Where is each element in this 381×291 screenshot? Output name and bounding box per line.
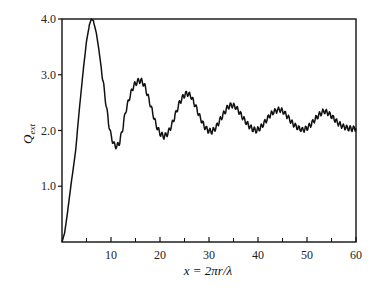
x-axis-label: x = 2πr/λ xyxy=(183,263,233,278)
y-tick-label: 2.0 xyxy=(41,124,56,138)
y-axis-ticks: 1.02.03.04.0 xyxy=(41,12,62,193)
x-tick-label: 50 xyxy=(301,248,313,262)
x-tick-label: 20 xyxy=(154,248,166,262)
data-series xyxy=(62,19,356,242)
x-axis-ticks: 102030405060 xyxy=(87,237,363,262)
x-tick-label: 40 xyxy=(252,248,264,262)
y-tick-label: 1.0 xyxy=(41,179,56,193)
x-tick-label: 10 xyxy=(105,248,117,262)
chart: 1.02.03.04.0 102030405060 x = 2πr/λ Qext xyxy=(0,0,381,291)
y-axis-label-subscript: ext xyxy=(27,124,37,135)
svg-text:Qext: Qext xyxy=(20,124,37,144)
y-tick-label: 4.0 xyxy=(41,12,56,26)
series-line-qext xyxy=(62,19,356,242)
x-tick-label: 60 xyxy=(350,248,362,262)
x-tick-label: 30 xyxy=(203,248,215,262)
y-tick-label: 3.0 xyxy=(41,68,56,82)
y-axis-label: Qext xyxy=(20,124,37,144)
